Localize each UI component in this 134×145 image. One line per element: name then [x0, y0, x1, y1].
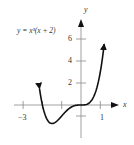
y-tick-label-6: 6: [68, 35, 72, 43]
x-axis-arrow-icon: [111, 102, 119, 108]
y-tick-label-2: 2: [68, 79, 72, 87]
y-axis-arrow-icon: [78, 19, 84, 27]
function-graph: [0, 0, 134, 145]
x-tick-label-1: 1: [100, 114, 104, 122]
equation-text: y = x³(x + 2): [17, 26, 56, 35]
x-axis-label: x: [123, 101, 127, 109]
ticks: [23, 39, 100, 116]
y-tick-label-4: 4: [68, 57, 72, 65]
equation-label: y = x³(x + 2): [17, 27, 56, 35]
x-tick-label-neg3: −3: [18, 114, 27, 122]
y-axis-label: y: [84, 6, 88, 14]
